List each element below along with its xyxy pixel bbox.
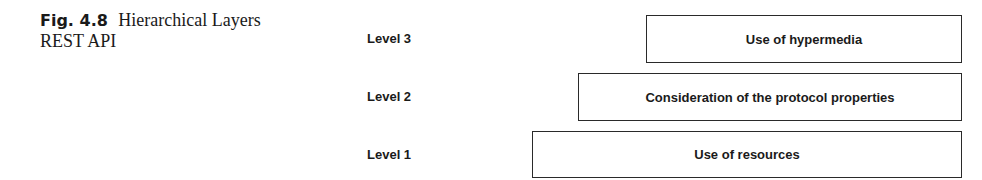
figure-title-line2: REST API xyxy=(40,31,116,51)
level-3-box: Use of hypermedia xyxy=(646,15,962,63)
level-1-box-text: Use of resources xyxy=(694,147,800,162)
level-2-box-text: Consideration of the protocol properties xyxy=(645,90,894,105)
level-2-box: Consideration of the protocol properties xyxy=(578,73,962,121)
figure-title-line1: Hierarchical Layers xyxy=(118,10,260,30)
figure-number: Fig. 4.8 xyxy=(40,11,108,30)
level-3-box-text: Use of hypermedia xyxy=(746,32,862,47)
figure-caption: Fig. 4.8 Hierarchical Layers REST API xyxy=(40,10,300,52)
level-1-label: Level 1 xyxy=(367,147,411,162)
level-2-label: Level 2 xyxy=(367,89,411,104)
level-1-box: Use of resources xyxy=(532,131,962,178)
level-3-label: Level 3 xyxy=(367,31,411,46)
